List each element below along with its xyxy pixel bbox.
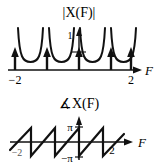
magnitude-lobe xyxy=(80,28,105,62)
phase-panel-title: ∡X(F) xyxy=(59,96,100,112)
phase-x-axis-arrowhead xyxy=(124,139,133,146)
impulse-arrowhead xyxy=(11,47,19,57)
magnitude-panel: |X(F)| F xyxy=(8,5,154,87)
magnitude-xtick-label-left: −2 xyxy=(9,73,22,87)
impulse-arrowhead xyxy=(43,47,51,57)
magnitude-panel-title: |X(F)| xyxy=(63,5,96,21)
magnitude-x-axis-arrowhead xyxy=(133,66,142,73)
phase-panel: ∡X(F) F π −π −2 2 xyxy=(10,96,147,164)
magnitude-x-axis-label: F xyxy=(144,63,154,78)
phase-ytick-label-neg-pi: −π xyxy=(61,152,73,164)
figure-container: |X(F)| F xyxy=(0,0,158,166)
phase-ytick-label-pi: π xyxy=(67,121,73,133)
phase-y-axis-arrowhead xyxy=(76,116,82,125)
magnitude-xtick-label-right: 2 xyxy=(128,73,134,87)
magnitude-unit-height-label: 1 xyxy=(68,30,73,41)
phase-xtick-label-left: −2 xyxy=(12,147,23,158)
magnitude-lobe xyxy=(18,28,43,62)
phase-xtick-label-right: 2 xyxy=(109,144,115,156)
spectrum-figure-svg: |X(F)| F xyxy=(0,0,158,166)
phase-x-axis-label: F xyxy=(137,135,147,150)
